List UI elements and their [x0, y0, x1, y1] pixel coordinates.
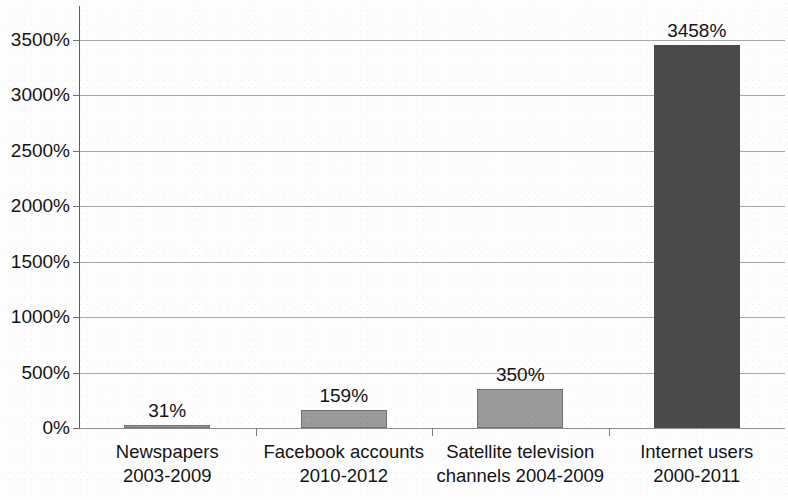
x-category-2[interactable]: Satellite televisionchannels 2004-2009: [426, 440, 615, 488]
plot-area: [79, 6, 785, 428]
x-category-line1-1: Facebook accounts: [264, 441, 424, 462]
bar-value-label-2: 350%: [450, 365, 590, 385]
y-axis-label-2500: 2500%: [0, 141, 70, 160]
y-axis-label-3000: 3000%: [0, 85, 70, 104]
x-category-line2-1: 2010-2012: [250, 464, 439, 488]
y-axis-label-2000: 2000%: [0, 196, 70, 215]
bar-value-label-1: 159%: [274, 386, 414, 406]
y-tick-3500: [73, 40, 80, 41]
cropped-title-fragment: [500, 0, 620, 3]
x-category-line1-2: Satellite television: [446, 441, 594, 462]
x-category-line1-3: Internet users: [640, 441, 753, 462]
y-tick-1000: [73, 317, 80, 318]
y-tick-2500: [73, 151, 80, 152]
bar-3[interactable]: [654, 45, 740, 428]
x-category-line2-3: 2000-2011: [603, 464, 788, 488]
y-axis-label-1000: 1000%: [0, 307, 70, 326]
bar-value-label-0: 31%: [97, 401, 237, 421]
x-category-3[interactable]: Internet users2000-2011: [603, 440, 788, 488]
x-category-line2-2: channels 2004-2009: [426, 464, 615, 488]
y-axis-label-500: 500%: [0, 363, 70, 382]
bar-chart-figure: 0%500%1000%1500%2000%2500%3000%3500% New…: [0, 0, 788, 500]
y-tick-2000: [73, 206, 80, 207]
y-axis-label-3500: 3500%: [0, 30, 70, 49]
x-axis-separator-3: [609, 428, 610, 436]
y-tick-500: [73, 373, 80, 374]
bar-value-label-3: 3458%: [627, 21, 767, 41]
x-axis-separator-1: [256, 428, 257, 436]
y-tick-0: [73, 428, 80, 429]
bar-1[interactable]: [301, 410, 387, 428]
x-axis-separator-2: [432, 428, 433, 436]
bar-2[interactable]: [477, 389, 563, 428]
y-tick-1500: [73, 262, 80, 263]
x-category-line2-0: 2003-2009: [73, 464, 262, 488]
bar-0[interactable]: [124, 425, 210, 428]
y-axis-label-0: 0%: [0, 418, 70, 437]
x-category-0[interactable]: Newspapers2003-2009: [73, 440, 262, 488]
x-category-1[interactable]: Facebook accounts2010-2012: [250, 440, 439, 488]
y-axis-label-1500: 1500%: [0, 252, 70, 271]
x-category-line1-0: Newspapers: [116, 441, 219, 462]
y-tick-3000: [73, 95, 80, 96]
